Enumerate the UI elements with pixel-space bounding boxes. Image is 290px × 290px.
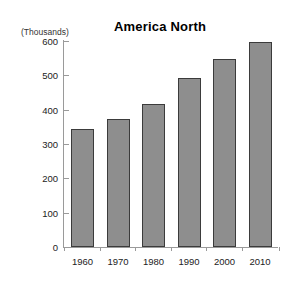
y-axis-tick-label: 400 <box>12 104 58 115</box>
x-axis-tick-label: 1990 <box>169 256 209 267</box>
y-axis-tick-mark <box>63 247 69 248</box>
bar <box>107 119 130 247</box>
y-axis-tick-label: 0 <box>12 242 58 253</box>
y-axis-tick-mark <box>63 41 69 42</box>
x-axis-tick-mark <box>279 247 280 251</box>
y-axis-tick-label: 300 <box>12 139 58 150</box>
y-axis-tick-mark <box>63 110 69 111</box>
y-axis-tick-label: 500 <box>12 70 58 81</box>
bar-chart: (Thousands) America North 01002003004005… <box>0 0 290 290</box>
x-axis-tick-mark <box>100 247 101 251</box>
x-axis-tick-label: 1960 <box>63 256 103 267</box>
bar <box>213 59 236 247</box>
y-axis-tick-mark <box>63 178 69 179</box>
y-axis-ticks: 0100200300400500600 <box>10 0 58 290</box>
y-axis-tick-mark <box>63 213 69 214</box>
y-axis-tick-label: 200 <box>12 173 58 184</box>
x-axis-tick-mark <box>242 247 243 251</box>
x-axis-tick-mark <box>135 247 136 251</box>
y-axis-tick-mark <box>63 144 69 145</box>
bar <box>178 78 201 247</box>
x-axis-tick-label: 2000 <box>205 256 245 267</box>
x-axis-tick-label: 1980 <box>134 256 174 267</box>
chart-title: America North <box>85 19 235 34</box>
bars-container <box>63 41 277 247</box>
bar <box>249 42 272 247</box>
bar <box>142 104 165 248</box>
bar <box>71 129 94 247</box>
y-axis-tick-label: 600 <box>12 36 58 47</box>
x-axis-tick-mark <box>206 247 207 251</box>
x-axis-tick-mark <box>171 247 172 251</box>
x-axis-tick-label: 1970 <box>98 256 138 267</box>
y-axis-tick-label: 100 <box>12 207 58 218</box>
y-axis-tick-mark <box>63 75 69 76</box>
x-axis-tick-label: 2010 <box>240 256 280 267</box>
